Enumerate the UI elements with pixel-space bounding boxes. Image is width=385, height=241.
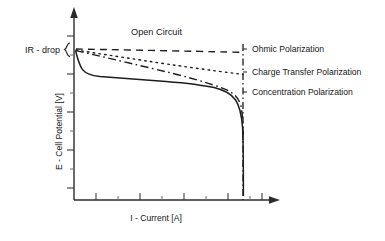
curve-concentration (76, 51, 243, 140)
curve-open-circuit-ohmic (76, 49, 243, 52)
ir-drop-brace (65, 43, 70, 57)
annotation-ir-drop: IR - drop (25, 45, 60, 55)
y-axis-arrowhead (70, 7, 78, 18)
y-axis-ticks (67, 36, 74, 188)
chart-canvas: Open Circuit IR - drop Ohmic Polarizatio… (0, 0, 385, 241)
x-axis-title: I - Current [A] (130, 213, 182, 223)
polarization-curve-figure: Open Circuit IR - drop Ohmic Polarizatio… (0, 0, 385, 241)
x-axis-arrowhead (269, 196, 280, 203)
x-axis-ticks (96, 193, 262, 200)
annotation-concentration-polarization: Concentration Polarization (252, 87, 353, 97)
annotation-open-circuit: Open Circuit (131, 27, 183, 37)
curve-actual-cell-voltage (76, 51, 244, 197)
annotation-ohmic-polarization: Ohmic Polarization (252, 44, 324, 54)
y-axis-title: E - Cell Potential [V] (54, 93, 64, 170)
annotation-charge-transfer-polarization: Charge Transfer Polarization (252, 67, 362, 77)
